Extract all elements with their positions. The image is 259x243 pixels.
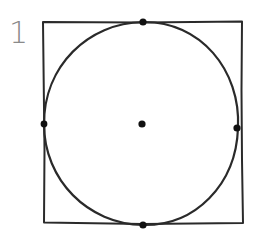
point-bottom bbox=[139, 221, 146, 228]
point-center bbox=[138, 120, 145, 127]
point-top bbox=[139, 18, 146, 25]
circle-in-square-diagram bbox=[0, 0, 259, 243]
point-right bbox=[233, 124, 240, 131]
point-left bbox=[41, 121, 48, 128]
